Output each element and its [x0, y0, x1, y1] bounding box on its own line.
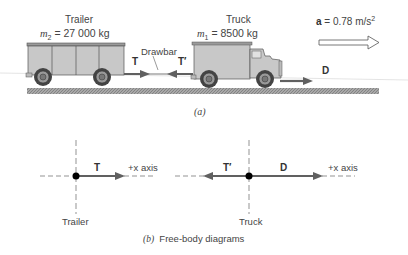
fbd-trailer	[40, 140, 155, 214]
force-T-label: T	[132, 57, 138, 67]
mass-value: = 27 000 kg	[52, 27, 110, 39]
truck-wheel-front	[256, 70, 274, 88]
fbd-truck	[175, 140, 355, 214]
acceleration-label: a = 0.78 m/s2	[316, 15, 375, 27]
truck-label: Truck	[226, 15, 251, 25]
fbd-truck-label: Truck	[239, 217, 262, 227]
truck-mass-label: m1 = 8500 kg	[197, 28, 258, 41]
fbd-trailer-label: Trailer	[62, 217, 89, 227]
truck-vehicle	[191, 42, 282, 88]
acceleration-arrow	[319, 36, 379, 49]
trailer-vehicle	[26, 43, 125, 86]
truck-wheel-rear	[200, 70, 218, 88]
fbd-truck-axis-label: +x axis	[328, 163, 358, 173]
ground	[27, 88, 379, 94]
trailer-mass-label: m2 = 27 000 kg	[40, 28, 110, 41]
caption-b: (b) Free-body diagrams	[143, 234, 244, 245]
force-T-prime-label: T′	[178, 57, 187, 67]
mass-symbol: m	[197, 28, 205, 39]
trailer-wheel-rear	[34, 68, 52, 86]
trailer-wheel-front	[93, 68, 111, 86]
arrow-T	[124, 70, 150, 78]
arrow-T-prime	[167, 70, 193, 78]
caption-a: (a)	[194, 107, 206, 117]
fbd-trailer-force-T: T	[94, 163, 100, 173]
drawbar-leader-line	[153, 56, 158, 70]
fbd-truck-force-T-prime: T′	[223, 163, 232, 173]
fbd-truck-force-D: D	[280, 163, 287, 173]
acceleration-exponent: 2	[371, 15, 375, 22]
mass-symbol: m	[40, 28, 48, 39]
mass-value: = 8500 kg	[209, 27, 258, 39]
trailer-label: Trailer	[65, 15, 93, 25]
trailer-particle-dot	[73, 173, 80, 180]
fbd-trailer-axis-label: +x axis	[128, 163, 158, 173]
truck-particle-dot	[246, 173, 253, 180]
caption-b-text: Free-body diagrams	[159, 233, 244, 244]
caption-b-label: (b)	[143, 234, 154, 244]
acceleration-value: = 0.78 m/s	[322, 16, 372, 27]
force-D-label: D	[322, 66, 329, 76]
drawbar-label: Drawbar	[141, 47, 177, 57]
